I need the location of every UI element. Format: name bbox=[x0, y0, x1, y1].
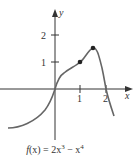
x-axis-label: x bbox=[124, 90, 130, 101]
ytick-label-2: 2 bbox=[41, 30, 46, 41]
function-curve bbox=[8, 48, 114, 128]
y-axis-label: y bbox=[58, 7, 64, 18]
y-axis-arrow-icon bbox=[52, 9, 58, 17]
point-1-1 bbox=[78, 60, 83, 65]
caption-rest: (x) = 2x bbox=[29, 144, 61, 155]
ytick-label-1: 1 bbox=[41, 57, 46, 68]
xtick-label-1: 1 bbox=[77, 93, 82, 104]
point-peak bbox=[91, 46, 96, 51]
caption-minus: − x bbox=[65, 144, 81, 155]
function-caption: f(x) = 2x3 − x4 bbox=[0, 143, 110, 155]
caption-exp2: 4 bbox=[80, 143, 84, 151]
function-plot: 1 2 1 2 x y bbox=[0, 0, 135, 158]
